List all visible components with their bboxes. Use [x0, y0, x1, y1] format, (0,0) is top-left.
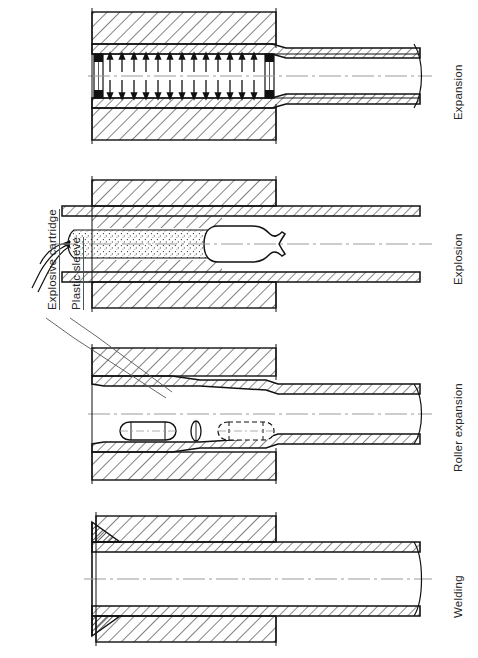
panel-label-explosion: Explosion	[452, 233, 464, 285]
tube-joint-figure: Explosive cartridge Plastic sleeve Expan…	[0, 0, 478, 658]
leader-explosive-cartridge	[46, 318, 74, 338]
leader-explosive-cartridge-2	[74, 338, 166, 398]
leader-plastic-sleeve-2	[96, 336, 172, 392]
leader-plastic-sleeve	[70, 318, 96, 336]
callout-leaders	[0, 0, 478, 658]
callout-explosive-cartridge: Explosive cartridge	[46, 209, 60, 310]
panel-label-expansion: Expansion	[452, 64, 464, 120]
callout-plastic-sleeve: Plastic sleeve	[70, 237, 84, 310]
panel-label-welding: Welding	[452, 575, 464, 618]
panel-label-roller-expansion: Roller expansion	[452, 383, 464, 472]
